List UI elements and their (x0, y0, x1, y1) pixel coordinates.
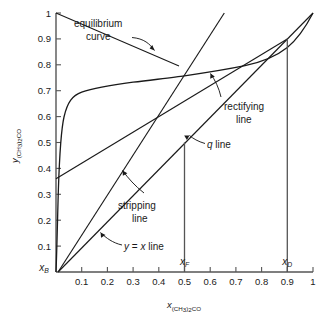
x-tick-label: 0.7 (229, 276, 242, 287)
x-tick-label: 0.1 (75, 276, 88, 287)
x-tick-label: 0.4 (152, 276, 165, 287)
q-line-rest: line (213, 139, 232, 150)
x-tick-label: 0.2 (101, 276, 114, 287)
equals-sign: = (129, 241, 140, 252)
x-axis-title-co: CO (192, 305, 201, 312)
x-tick-label: 0.9 (281, 276, 294, 287)
y-tick-label: 0.3 (38, 189, 51, 200)
annotation-yx-line: y = x line (123, 241, 164, 252)
x-axis-title-sub: (CH (172, 305, 183, 312)
annotation-line-2: line (132, 213, 148, 224)
x-tick-label: 0.3 (126, 276, 139, 287)
y-axis-title-sub: (CH (15, 147, 22, 158)
y-tick-label: 1 (46, 8, 51, 19)
annotation-line-1: rectifying (224, 101, 264, 112)
x-tick-label: 1 (310, 276, 315, 287)
y-tick-label: 0.1 (38, 241, 51, 252)
y-tick-label: 0.9 (38, 33, 51, 44)
yx-rest: line (145, 241, 164, 252)
annotation-line-1: stripping (118, 200, 156, 211)
annotation-q-line: q line (207, 139, 231, 150)
y-tick-label: 0.4 (38, 163, 51, 174)
figure-container: 0.1 0.2 0.3 0.4 0.5 0.6 0.7 0.8 0.9 1 0.… (0, 0, 327, 321)
y-tick-label: 0.6 (38, 111, 51, 122)
y-tick-label: 0.7 (38, 85, 51, 96)
annotation-line-2: line (236, 114, 252, 125)
x-tick-label: 0.6 (204, 276, 217, 287)
xB-sub: B (44, 267, 49, 274)
y-axis-title-co: CO (15, 129, 22, 138)
mccabe-thiele-chart: 0.1 0.2 0.3 0.4 0.5 0.6 0.7 0.8 0.9 1 0.… (0, 0, 327, 321)
y-tick-label: 0.5 (38, 137, 51, 148)
y-tick-label: 0.8 (38, 59, 51, 70)
x-tick-label: 0.8 (255, 276, 268, 287)
xD-sub: D (287, 261, 292, 268)
x-tick-label: 0.5 (178, 276, 191, 287)
annotation-line-2: curve (86, 31, 111, 42)
y-tick-label: 0.2 (38, 215, 51, 226)
annotation-line-1: equilibrium (74, 18, 122, 29)
